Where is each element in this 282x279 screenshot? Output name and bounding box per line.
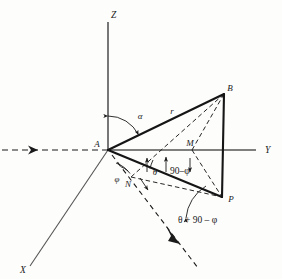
axis-label-z: Z	[111, 10, 117, 20]
angle-label-phi: φ	[115, 174, 120, 184]
incident-ray-arrow-icon	[28, 145, 38, 154]
angle-label-theta-plus-90-minus-phi: θ + 90 – φ	[178, 215, 218, 225]
axis-label-x: X	[19, 265, 27, 275]
angle-label-90-minus-phi: 90–φ	[170, 166, 190, 176]
dashed-edges-group	[131, 94, 224, 197]
geometry-diagram: Z Y X A B M N P r α θ 90–φ φ θ + 90 – φ	[0, 0, 282, 279]
point-label-p: P	[227, 194, 234, 204]
edge-A-B	[108, 94, 224, 150]
x-axis	[30, 150, 108, 266]
edge-A-P	[108, 150, 222, 197]
point-label-a: A	[93, 139, 100, 149]
incident-ray-group	[2, 145, 108, 154]
angle-label-alpha: α	[138, 111, 143, 121]
angle-label-theta: θ	[153, 167, 158, 177]
axis-label-y: Y	[265, 145, 272, 155]
diagram-canvas: Z Y X A B M N P r α θ 90–φ φ θ + 90 – φ	[0, 0, 282, 279]
angle-alpha-arc	[108, 116, 139, 135]
point-label-n: N	[124, 179, 132, 189]
point-label-b: B	[227, 83, 233, 93]
point-label-m: M	[185, 138, 194, 148]
angle-phi-arc2	[116, 163, 130, 174]
edge-B-P	[222, 94, 224, 197]
angle-theta90phi-arc	[186, 186, 206, 218]
edge-N-P	[131, 177, 222, 197]
tick-N	[140, 178, 148, 190]
segment-label-r: r	[170, 106, 174, 116]
